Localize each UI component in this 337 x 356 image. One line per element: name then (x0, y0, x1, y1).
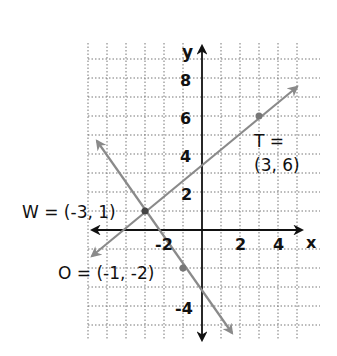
y-axis-label: y (182, 42, 193, 62)
label-w: W = (-3, 1) (22, 202, 116, 222)
x-tick-2: 2 (235, 235, 246, 254)
x-tick-neg2: -2 (155, 235, 173, 254)
label-t-line1: T = (253, 131, 284, 151)
y-tick-6: 6 (180, 109, 191, 128)
y-tick-4: 4 (180, 147, 191, 166)
label-t-line2: (3, 6) (254, 155, 300, 175)
y-tick-2: 2 (181, 185, 192, 204)
y-tick-neg4: -4 (175, 299, 193, 318)
grid (88, 43, 320, 340)
coordinate-plane: y x 8 6 4 2 -4 -2 2 4 W = (-3, 1) O = (-… (0, 0, 337, 356)
x-axis-label: x (306, 233, 317, 252)
point-t (256, 113, 263, 120)
y-tick-8: 8 (180, 71, 191, 90)
x-tick-4: 4 (273, 235, 284, 254)
point-o (180, 265, 187, 272)
point-w (142, 208, 149, 215)
label-o: O = (-1, -2) (58, 263, 154, 283)
